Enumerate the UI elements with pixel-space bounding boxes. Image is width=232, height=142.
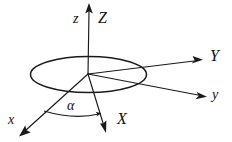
y-axis-arrowhead xyxy=(195,92,207,99)
Y-axis-line xyxy=(88,61,194,74)
y-axis-uppercase-label: Y xyxy=(210,48,219,64)
Y-axis-arrowhead xyxy=(192,56,203,64)
z-axis-uppercase-label: Z xyxy=(98,10,107,26)
z-axis-line xyxy=(88,11,89,74)
coordinate-diagram-svg xyxy=(0,0,232,142)
alpha-angle-label: α xyxy=(67,99,74,113)
z-axis-lowercase-label: z xyxy=(73,12,78,26)
x-axis-uppercase-label: X xyxy=(117,111,127,127)
x-axis-lowercase-label: x xyxy=(8,113,14,127)
y-axis-lowercase-label: y xyxy=(212,88,218,102)
figure-canvas: z Z Y y X x α xyxy=(0,0,232,142)
